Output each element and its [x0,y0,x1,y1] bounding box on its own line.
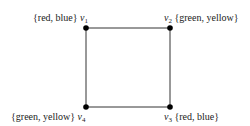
color-list-v3: {red, blue} [174,111,219,122]
color-list-v1: {red, blue} [33,12,78,23]
vertex-label-v4: {green, yellow} v4 [11,112,85,122]
vertex-v4 [83,104,89,110]
vertex-label-v1: {red, blue} v1 [33,13,88,23]
vertex-label-v2: v2 {green, yellow} [164,13,238,23]
vertices [83,25,173,110]
color-list-v2: {green, yellow} [174,12,238,23]
vertex-v1 [83,25,89,31]
color-list-v4: {green, yellow} [11,111,75,122]
edges [86,28,170,107]
vertex-v2 [167,25,173,31]
vertex-v3 [167,104,173,110]
vertex-label-v3: v3 {red, blue} [164,112,219,122]
